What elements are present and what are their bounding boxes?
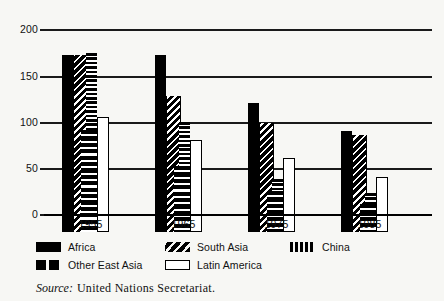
source-label: Source: [36, 281, 73, 295]
y-tick-label: 0 [32, 209, 38, 219]
legend-label-latin-america: Latin America [197, 259, 262, 271]
legend-label-south-asia: South Asia [197, 241, 248, 253]
legend-item-south-asia: South Asia [165, 241, 248, 253]
bar-group-1975 [230, 18, 323, 232]
y-tick-label: 100 [20, 117, 38, 127]
y-axis-labels: 200 150 100 50 0 [8, 0, 38, 232]
bar-1965-africa [155, 55, 166, 232]
x-tick-label-1955: 1955 [44, 218, 137, 230]
y-tick-label: 50 [26, 163, 38, 173]
plot-area: 200 150 100 50 0 [0, 0, 444, 232]
x-tick-label-1985: 1985 [323, 218, 416, 230]
y-tick-label: 200 [20, 24, 38, 34]
legend-swatch-south-asia-icon [165, 242, 190, 252]
legend-label-china: China [322, 241, 350, 253]
x-tick-label-1965: 1965 [137, 218, 230, 230]
legend-item-africa: Africa [36, 241, 95, 253]
legend-swatch-other-east-asia-icon [36, 260, 61, 270]
y-tick-label: 150 [20, 71, 38, 81]
legend-item-other-east-asia: Other East Asia [36, 259, 142, 271]
bar-1985-africa [341, 131, 352, 232]
legend-label-africa: Africa [68, 241, 95, 253]
legend-item-latin-america: Latin America [165, 259, 262, 271]
legend-swatch-africa-icon [36, 242, 61, 252]
legend-label-other-east-asia: Other East Asia [68, 259, 142, 271]
bar-group-1985 [323, 18, 416, 232]
bar-1955-africa [62, 55, 73, 232]
bar-1975-africa [248, 103, 259, 232]
source-text: United Nations Secretariat. [77, 281, 215, 295]
x-tick-label-1975: 1975 [230, 218, 323, 230]
bar-chart: 200 150 100 50 0 [0, 0, 444, 301]
source-note: Source:United Nations Secretariat. [36, 281, 215, 296]
bar-group-1965 [137, 18, 230, 232]
bar-1955-other-east-asia [81, 130, 97, 232]
bar-group-1955 [44, 18, 137, 232]
legend-swatch-china-icon [290, 242, 315, 252]
legend-item-china: China [290, 241, 350, 253]
legend-swatch-latin-america-icon [165, 260, 190, 270]
x-axis-line [44, 214, 432, 216]
legend: Africa South Asia China Other East Asia … [36, 241, 408, 275]
